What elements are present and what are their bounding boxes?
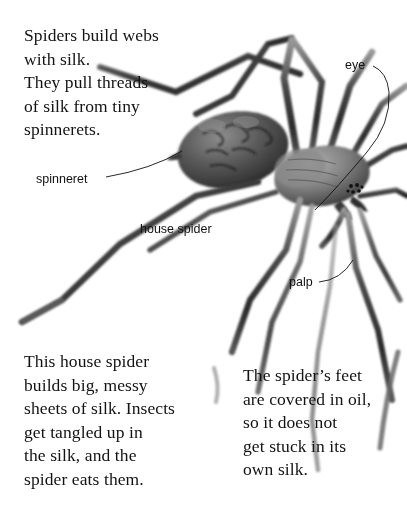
callout-label-eye: eye <box>345 58 365 72</box>
leader-line-palp <box>319 260 353 282</box>
callout-label-palp: palp <box>289 275 313 289</box>
leader-line-spinneret <box>106 151 182 177</box>
callout-label-spinneret: spinneret <box>36 172 87 186</box>
page-root: Spiders build webs with silk. They pull … <box>0 0 407 505</box>
paragraph-feet: The spider’s feet are covered in oil, so… <box>243 364 403 482</box>
paragraph-web: This house spider builds big, messy shee… <box>24 350 214 491</box>
paragraph-intro: Spiders build webs with silk. They pull … <box>24 24 209 142</box>
callout-label-house-spider: house spider <box>140 222 212 236</box>
